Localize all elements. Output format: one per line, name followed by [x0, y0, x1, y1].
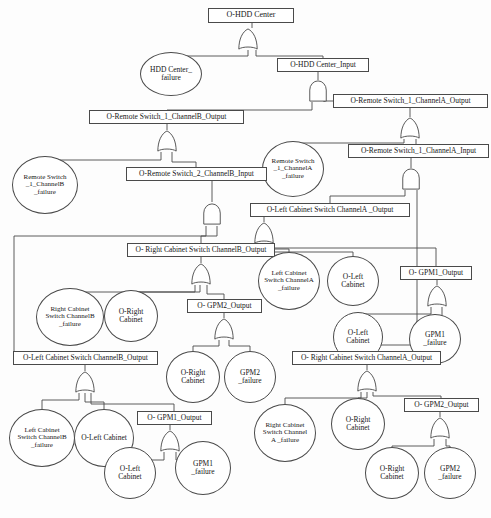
- or-gate-left-cabinet-switch-channelb-output[interactable]: [73, 371, 97, 393]
- event-box[interactable]: O- Right Cabinet Switch ChannelA_Output: [292, 351, 441, 365]
- event-label: O-Remote Switch_1_ChannelA_Input: [361, 147, 476, 155]
- connector-wire: [193, 340, 219, 351]
- event-label: O- GPM1_Output: [409, 269, 463, 277]
- fault-tree-diagram: O-HDD CenterHDD Center_ failureO-HDD Cen…: [0, 0, 491, 518]
- basic-event-circle[interactable]: Left Cabinet Switch ChannelA _failure: [258, 252, 320, 310]
- event-box[interactable]: O- GPM2_Output: [187, 299, 262, 313]
- or-gate-shape-icon: [398, 117, 422, 139]
- basic-event-circle[interactable]: Right Cabinet Switch Channel A _failure: [254, 404, 316, 462]
- basic-event-circle[interactable]: GPM2 _failure: [424, 447, 476, 499]
- event-label: Remote Switch _1_ChannelA _failure: [272, 158, 315, 181]
- event-label: GPM2 _failure: [438, 465, 461, 481]
- or-gate-shape-icon: [425, 285, 449, 307]
- and-gate-remote-switch1-channela-input[interactable]: [400, 168, 422, 190]
- event-label: O- GPM2_Output: [414, 401, 468, 409]
- event-label: Right Cabinet Switch Channel A _failure: [263, 422, 308, 445]
- basic-event-circle[interactable]: Remote Switch _1_ChannelB _failure: [12, 156, 78, 214]
- event-label: O-Right Cabinet: [380, 465, 405, 481]
- or-gate-gpm2-output-mid[interactable]: [212, 318, 236, 340]
- or-gate-gpm2-output-bottom[interactable]: [428, 417, 452, 439]
- event-box[interactable]: O-HDD Center_Input: [277, 58, 369, 72]
- or-gate-shape-icon: [355, 370, 379, 392]
- event-label: O-Left Cabinet: [118, 465, 141, 481]
- event-box[interactable]: O-Remote Switch_1_ChannelA_Input: [348, 144, 489, 158]
- event-label: O-Remote Switch_1_ChannelA_Output: [350, 97, 470, 105]
- basic-event-circle[interactable]: Remote Switch _1_ChannelA _failure: [262, 141, 324, 197]
- basic-event-circle[interactable]: O-Left Cabinet: [104, 447, 156, 499]
- or-gate-shape-icon: [73, 371, 97, 393]
- connector-wire: [446, 439, 450, 447]
- and-gate-shape-icon: [201, 202, 223, 226]
- event-label: O- GPM1_Output: [147, 414, 201, 422]
- basic-event-circle[interactable]: HDD Center_ failure: [140, 52, 202, 96]
- basic-event-circle[interactable]: O-Right Cabinet: [166, 351, 220, 403]
- or-gate-shape-icon: [158, 430, 182, 452]
- or-gate-right-cabinet-switch-channelb-output[interactable]: [189, 263, 213, 285]
- and-gate-hdd-center-input[interactable]: [307, 80, 329, 102]
- event-box[interactable]: O-HDD Center: [208, 8, 294, 23]
- event-label: O-Left Cabinet: [341, 273, 364, 289]
- basic-event-circle[interactable]: GPM2 _failure: [224, 351, 276, 403]
- event-label: Left Cabinet Switch ChannelB _failure: [17, 427, 66, 450]
- connector-wire: [358, 307, 431, 314]
- connector-wire: [256, 50, 323, 58]
- event-label: O-Right Cabinet: [181, 369, 206, 385]
- connector-wire: [167, 102, 312, 110]
- event-label: Right Cabinet Switch ChannelB _failure: [45, 306, 94, 329]
- event-label: GPM1 _failure: [191, 460, 214, 476]
- or-gate-shape-icon: [189, 263, 213, 285]
- or-gate-left-cabinet-switch-channela-output[interactable]: [252, 222, 276, 244]
- event-label: O-HDD Center: [226, 11, 275, 20]
- connector-wire: [293, 139, 404, 143]
- or-gate-shape-icon: [428, 417, 452, 439]
- event-label: O-Left Cabinet: [346, 329, 369, 345]
- event-label: O-Right Cabinet: [346, 416, 371, 432]
- event-box[interactable]: O-Remote Switch_2_ChannelB_Input: [126, 167, 267, 181]
- event-box[interactable]: O-Remote Switch_1_ChannelA_Output: [333, 94, 488, 108]
- event-label: HDD Center_ failure: [150, 66, 192, 82]
- event-label: O- GPM2_Output: [197, 302, 251, 310]
- basic-event-circle[interactable]: Right Cabinet Switch ChannelB _failure: [36, 288, 104, 346]
- event-label: GPM1 _failure: [423, 331, 446, 347]
- event-label: O-HDD Center_Input: [290, 61, 356, 69]
- or-gate-hdd-center[interactable]: [236, 28, 260, 50]
- and-gate-shape-icon: [307, 80, 329, 102]
- event-label: O- Right Cabinet Switch ChannelB_Output: [136, 246, 267, 254]
- event-box[interactable]: O- Right Cabinet Switch ChannelB_Output: [127, 243, 275, 257]
- connector-wire: [42, 393, 79, 409]
- connector-wire: [229, 340, 250, 351]
- event-box[interactable]: O- GPM2_Output: [404, 398, 479, 412]
- event-box[interactable]: O-Left Cabinet Switch ChannelA _Output: [250, 203, 410, 217]
- basic-event-circle[interactable]: O-Right Cabinet: [365, 447, 419, 499]
- event-label: Left Cabinet Switch ChannelA _failure: [264, 270, 314, 293]
- event-label: O-Right Cabinet: [119, 308, 144, 324]
- event-label: O-Remote Switch_2_ChannelB_Input: [139, 170, 254, 178]
- event-label: O-Left Cabinet Switch ChannelA _Output: [267, 206, 394, 214]
- event-box[interactable]: O-Left Cabinet Switch ChannelB_Output: [13, 351, 158, 365]
- or-gate-gpm1-output-bottom[interactable]: [158, 430, 182, 452]
- or-gate-remote-switch1-channela-output[interactable]: [398, 117, 422, 139]
- basic-event-circle[interactable]: O-Right Cabinet: [104, 290, 158, 342]
- or-gate-right-cabinet-switch-channela-output[interactable]: [355, 370, 379, 392]
- basic-event-circle[interactable]: GPM1 _failure: [175, 441, 231, 495]
- event-label: GPM2 _failure: [238, 369, 261, 385]
- or-gate-shape-icon: [236, 28, 260, 50]
- or-gate-gpm1-output-right[interactable]: [425, 285, 449, 307]
- event-box[interactable]: O- GPM1_Output: [137, 411, 212, 425]
- and-gate-remote-switch2-channelb-input[interactable]: [201, 202, 223, 226]
- event-label: O-Remote Switch_1_ChannelB_Output: [107, 113, 227, 121]
- or-gate-shape-icon: [252, 222, 276, 244]
- or-gate-shape-icon: [212, 318, 236, 340]
- basic-event-circle[interactable]: O-Left Cabinet: [327, 256, 379, 306]
- event-box[interactable]: O- GPM1_Output: [400, 266, 472, 280]
- event-label: Remote Switch _1_ChannelB _failure: [24, 174, 67, 197]
- event-box[interactable]: O-Remote Switch_1_ChannelB_Output: [89, 110, 244, 124]
- connector-wire: [392, 439, 434, 447]
- event-label: O-Left Cabinet Switch ChannelB_Output: [23, 354, 148, 362]
- or-gate-remote-switch1-channelb-output[interactable]: [155, 130, 179, 152]
- connector-wire: [207, 285, 224, 299]
- connector-wire: [330, 190, 405, 203]
- basic-event-circle[interactable]: Left Cabinet Switch ChannelB _failure: [9, 409, 75, 467]
- basic-event-circle[interactable]: O-Right Cabinet: [331, 398, 385, 450]
- or-gate-shape-icon: [155, 130, 179, 152]
